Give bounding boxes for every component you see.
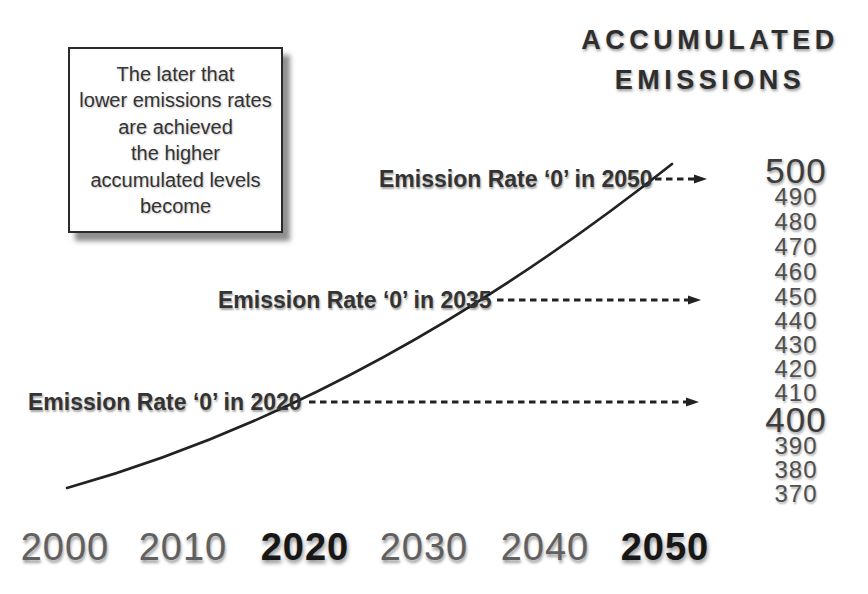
emission-rate-annotation-0: Emission Rate ‘0’ in 2050	[379, 165, 653, 193]
annotation-arrowhead-icon	[688, 295, 701, 304]
y-axis-scale: 5004904804704604504404304204104003903803…	[750, 0, 842, 594]
y-scale-tick-490: 490	[750, 183, 842, 211]
x-axis-label-2050: 2050	[600, 526, 730, 569]
annotation-arrowhead-icon	[694, 174, 707, 183]
y-scale-tick-370: 370	[750, 480, 842, 508]
x-axis-label-2040: 2040	[480, 526, 610, 569]
x-axis-label-2010: 2010	[118, 526, 248, 569]
x-axis-label-2020: 2020	[240, 526, 370, 569]
x-axis-label-2000: 2000	[0, 526, 130, 569]
x-axis-label-2030: 2030	[359, 526, 489, 569]
emission-rate-annotation-2: Emission Rate ‘0’ in 2020	[28, 388, 302, 416]
y-scale-tick-480: 480	[750, 208, 842, 236]
annotation-arrowhead-icon	[686, 397, 699, 406]
y-scale-tick-470: 470	[750, 233, 842, 261]
accumulated-emissions-chart: The later that lower emissions rates are…	[0, 0, 868, 594]
emission-rate-annotation-1: Emission Rate ‘0’ in 2035	[218, 286, 492, 314]
accumulated-emissions-curve	[67, 164, 672, 488]
y-scale-tick-460: 460	[750, 258, 842, 286]
